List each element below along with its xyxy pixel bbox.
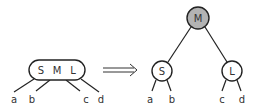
edge-root-s (168, 27, 191, 62)
left-child-b: b (29, 94, 35, 105)
edge-left-d (81, 79, 99, 92)
left-key-l: L (70, 65, 76, 76)
edge-s-a (152, 80, 156, 91)
left-key-s: S (38, 65, 44, 76)
left-three-key-node-group: S M L a b c d (11, 60, 104, 105)
double-arrow-icon (103, 64, 137, 76)
child-s-label: S (159, 66, 165, 77)
left-child-d: d (98, 94, 104, 105)
right-child-d: d (239, 94, 245, 105)
edge-l-c (222, 80, 226, 91)
right-child-b: b (169, 94, 175, 105)
right-child-a: a (147, 94, 153, 105)
left-child-a: a (11, 94, 17, 105)
edge-left-c (66, 80, 80, 91)
right-tree-group: M S L a b c d (147, 7, 245, 105)
left-child-c: c (83, 94, 89, 105)
edge-s-b (167, 80, 171, 91)
split-node-diagram: S M L a b c d M S L a b c d (0, 0, 258, 109)
right-child-c: c (219, 94, 225, 105)
edge-root-l (205, 27, 227, 62)
root-label: M (194, 13, 203, 24)
child-l-label: L (229, 66, 235, 77)
edge-left-b (36, 80, 50, 91)
left-key-m: M (53, 65, 62, 76)
edge-l-d (237, 80, 241, 91)
edge-left-a (14, 79, 34, 92)
